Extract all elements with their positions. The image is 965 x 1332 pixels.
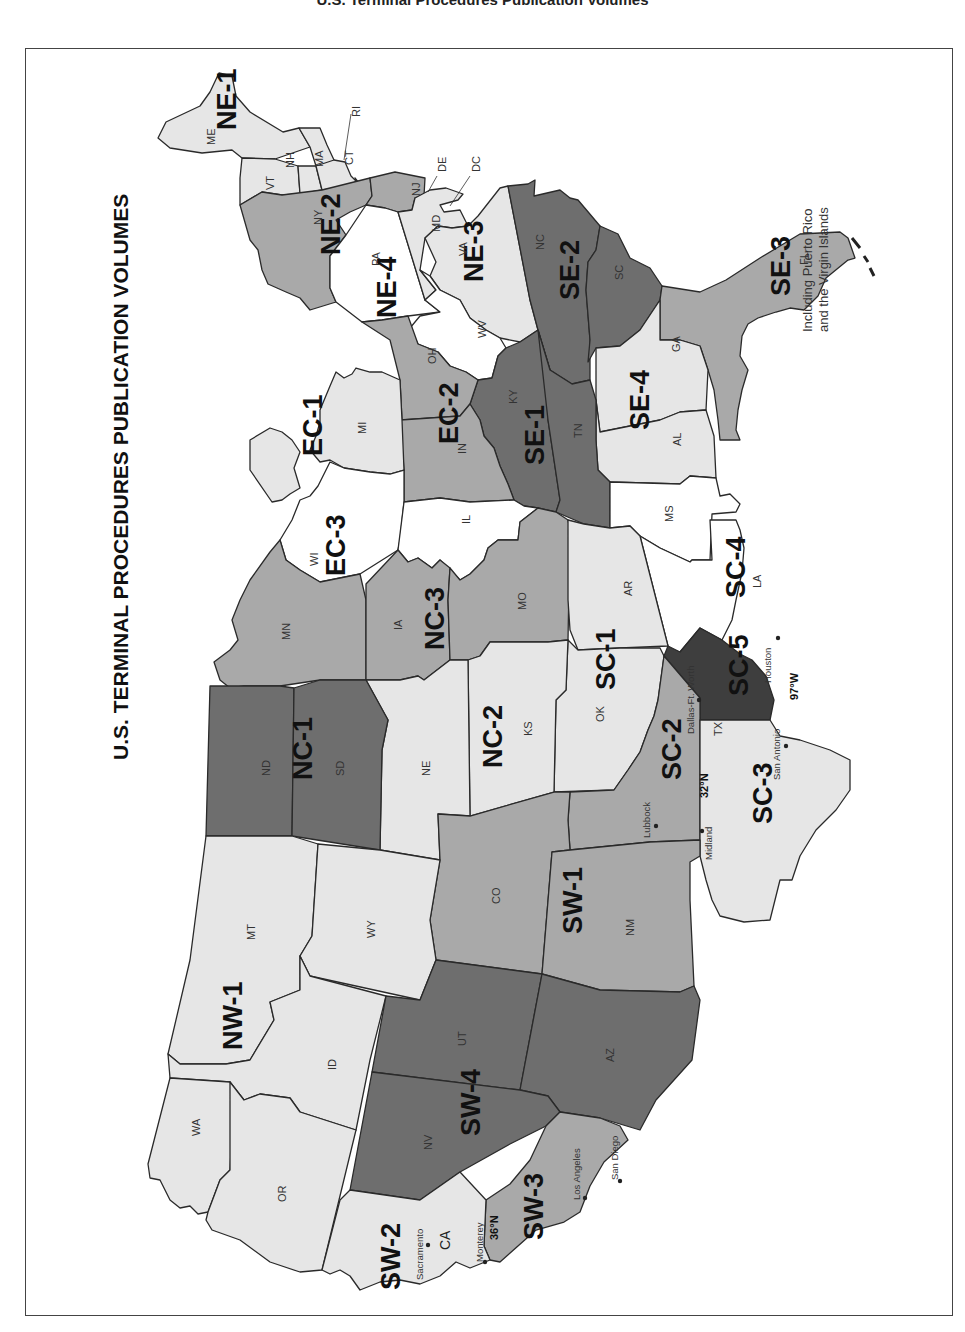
abbr-wi: WI	[308, 553, 320, 566]
abbr-wy: WY	[365, 920, 377, 938]
label-se-2: SE-2	[555, 240, 585, 300]
label-sw-1: SW-1	[558, 867, 588, 934]
abbr-ca: CA	[437, 1230, 453, 1250]
label-32n: 32°N	[698, 773, 710, 798]
label-sw-4: SW-4	[456, 1069, 486, 1136]
abbr-va: VA	[457, 241, 469, 256]
abbr-ms: MS	[663, 506, 675, 523]
city-dot	[697, 698, 701, 702]
label-sw-2: SW-2	[376, 1223, 406, 1290]
abbr-de: DE	[436, 157, 448, 172]
city-label: San Antonio	[771, 729, 782, 780]
city-label: Lubbock	[641, 802, 652, 838]
label-nc-1: NC-1	[288, 717, 318, 780]
city-label: Midland	[703, 827, 714, 860]
abbr-il: IL	[460, 515, 472, 524]
abbr-dc: DC	[470, 156, 482, 172]
abbr-ny: NY	[312, 209, 324, 225]
city-dot	[776, 636, 780, 640]
abbr-nc: NC	[534, 234, 546, 250]
label-sc-5: SC-5	[724, 634, 754, 696]
abbr-ri: RI	[350, 106, 362, 117]
abbr-ok: OK	[594, 705, 606, 722]
abbr-oh: OH	[426, 347, 438, 364]
city-label: Houston	[762, 648, 773, 683]
label-ec-3: EC-3	[321, 514, 351, 576]
abbr-ma: MA	[313, 150, 325, 167]
abbr-nv: NV	[422, 1134, 434, 1150]
abbr-vt: VT	[264, 176, 276, 190]
abbr-ks: KS	[522, 721, 534, 736]
abbr-ut: UT	[456, 1031, 468, 1046]
abbr-ia: IA	[392, 619, 404, 630]
city-dot	[583, 1196, 587, 1200]
abbr-nd: ND	[260, 760, 272, 776]
abbr-az: AZ	[604, 1048, 616, 1062]
city-label: Sacramento	[414, 1229, 425, 1280]
abbr-nh: NH	[284, 152, 296, 168]
abbr-ar: AR	[622, 581, 634, 596]
label-sc-4: SC-4	[721, 536, 751, 598]
state-nd[interactable]	[206, 686, 294, 836]
abbr-mi: MI	[356, 422, 368, 434]
abbr-sc: SC	[613, 265, 625, 280]
label-nc-3: NC-3	[420, 587, 450, 650]
abbr-md: MD	[430, 215, 442, 232]
note-line-1: Including Puerto Rico	[800, 208, 815, 332]
label-ec-2: EC-2	[434, 382, 464, 444]
abbr-nj: NJ	[410, 183, 422, 196]
abbr-ga: GA	[670, 335, 682, 352]
abbr-mt: MT	[245, 924, 257, 940]
abbr-sd: SD	[334, 761, 346, 776]
label-sc-1: SC-1	[591, 628, 621, 690]
abbr-mo: MO	[516, 592, 528, 610]
label-se-3: SE-3	[766, 236, 796, 296]
label-97w: 97°W	[788, 672, 800, 700]
us-tpp-volume-map: U.S. TERMINAL PROCEDURES PUBLICATION VOL…	[0, 0, 965, 1332]
city-label: San Diego	[609, 1136, 620, 1180]
city-dot	[426, 1243, 430, 1247]
abbr-mn: MN	[280, 623, 292, 640]
city-label: Dallas-Ft. Worth	[685, 666, 696, 734]
label-nw-1: NW-1	[218, 982, 248, 1050]
map-title: U.S. TERMINAL PROCEDURES PUBLICATION VOL…	[109, 194, 132, 760]
abbr-ky: KY	[507, 389, 519, 404]
label-sc-2: SC-2	[657, 718, 687, 780]
abbr-wv: WV	[476, 320, 488, 338]
abbr-id: ID	[326, 1059, 338, 1070]
city-dot	[654, 824, 658, 828]
label-nc-2: NC-2	[478, 705, 508, 768]
label-se-4: SE-4	[625, 370, 655, 430]
abbr-co: CO	[490, 887, 502, 904]
abbr-al: AL	[671, 433, 683, 446]
abbr-or: OR	[276, 1185, 288, 1202]
label-se-1: SE-1	[520, 405, 550, 465]
state-mi-upper[interactable]	[250, 428, 300, 502]
abbr-nm: NM	[624, 919, 636, 936]
city-label: Monterey	[474, 1222, 485, 1262]
abbr-la: LA	[751, 574, 763, 588]
abbr-tx: TX	[712, 721, 724, 736]
abbr-in: IN	[456, 443, 468, 454]
abbr-ne: NE	[420, 761, 432, 776]
abbr-fl: FL	[798, 252, 810, 265]
note-line-2: and the Virgin Islands	[816, 207, 831, 332]
abbr-wa: WA	[190, 1118, 202, 1136]
abbr-me: ME	[205, 129, 217, 146]
label-sw-3: SW-3	[519, 1173, 549, 1240]
label-ec-1: EC-1	[298, 394, 328, 456]
abbr-pa: PA	[370, 251, 382, 266]
label-36n: 36°N	[488, 1215, 500, 1240]
label-ne-1: NE-1	[212, 68, 242, 130]
city-houston: Houston	[762, 636, 780, 683]
city-label: Los Angeles	[571, 1148, 582, 1200]
city-dot	[784, 744, 788, 748]
abbr-tn: TN	[572, 423, 584, 438]
